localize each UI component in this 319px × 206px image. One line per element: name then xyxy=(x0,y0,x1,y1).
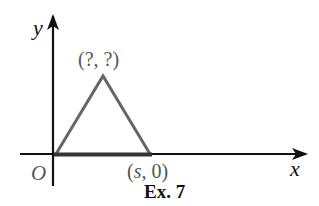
triangle-sides xyxy=(56,76,150,154)
figure-caption: Ex. 7 xyxy=(144,181,186,202)
triangle-diagram: y x O (?, ?) (s, 0) Ex. 7 xyxy=(0,0,319,206)
base-end-label: (s, 0) xyxy=(127,160,168,183)
origin-label: O xyxy=(31,161,46,185)
y-axis-label: y xyxy=(31,15,43,40)
apex-label: (?, ?) xyxy=(78,48,119,71)
base-end-label-var: s xyxy=(134,160,142,182)
x-axis-label: x xyxy=(289,156,300,181)
base-end-label-rest: , 0) xyxy=(141,160,168,183)
